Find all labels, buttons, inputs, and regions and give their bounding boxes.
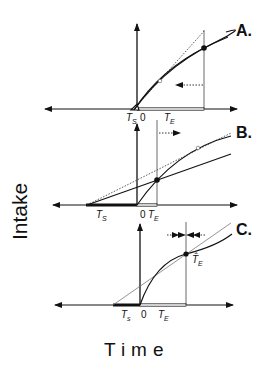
panel-a-label: A. <box>236 22 252 40</box>
panel-b-te-label: TE <box>148 209 159 222</box>
panel-a-search-bar <box>137 108 204 111</box>
panel-c-ts-label: Ts <box>121 309 131 322</box>
panel-c-optimum-dot <box>183 251 188 256</box>
panel-b-zero-label: 0 <box>140 209 146 220</box>
panel-b-label: B. <box>236 124 252 142</box>
panel-b-search-bar <box>137 204 157 207</box>
panel-a-gain-curve-2 <box>134 37 228 110</box>
y-axis-label: Intake <box>8 183 32 240</box>
panel-c-te-label: TE <box>158 309 169 322</box>
panel-c-travel-bar <box>113 304 140 307</box>
diagram-canvas <box>0 0 266 373</box>
panel-a-te-label: TE <box>164 112 175 125</box>
panel-a-gain-curve-1 <box>134 30 235 110</box>
panel-c-optimum-te-label: T̂E <box>192 254 203 267</box>
panel-a-intersection-dot <box>201 45 207 51</box>
panel-c-search-bar <box>140 304 186 307</box>
panel-b-intersection-dot <box>154 177 160 183</box>
panel-c-zero-label: 0 <box>141 309 147 320</box>
panel-a-zero-label: 0 <box>140 112 146 123</box>
panel-c-tangent-line <box>113 223 231 305</box>
panel-b <box>53 120 237 207</box>
panel-c-label: C. <box>236 221 252 239</box>
panel-c <box>55 222 233 307</box>
x-axis-label: Time <box>104 339 170 361</box>
panel-a <box>45 24 237 111</box>
panel-b-travel-bar <box>86 204 137 207</box>
panel-a-ts-label: TS <box>126 112 137 125</box>
panel-b-ts-label: TS <box>96 209 107 222</box>
